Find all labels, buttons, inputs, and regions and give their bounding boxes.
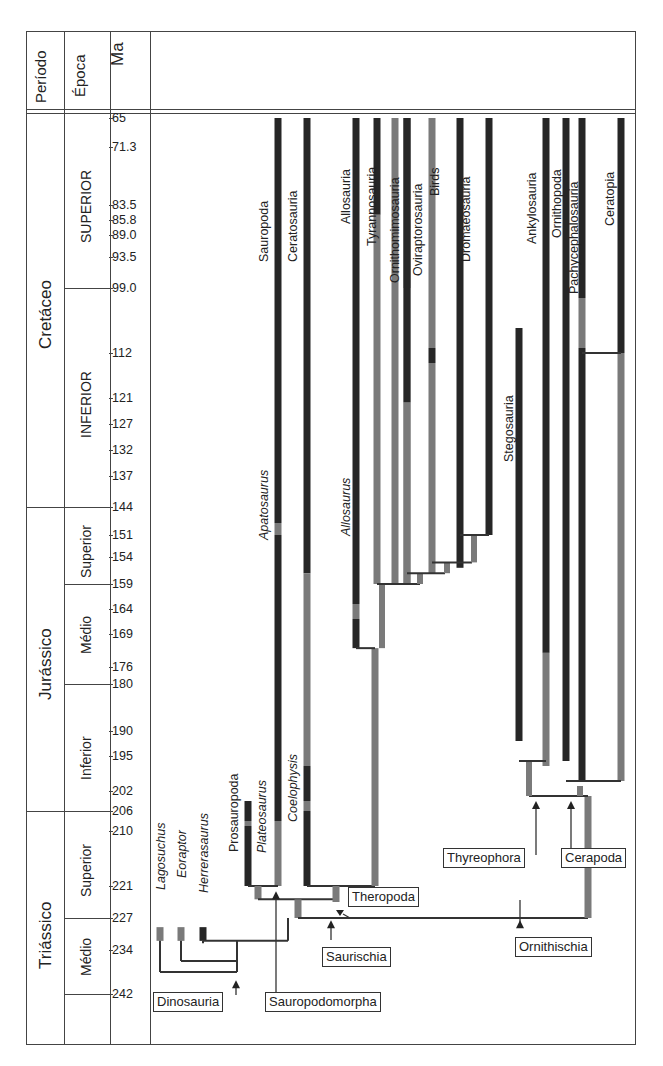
- taxon-label: Eoraptor: [175, 830, 189, 878]
- tetanurae-stem: [372, 648, 379, 886]
- sauropoda-range-bar: [275, 535, 282, 821]
- sauropoda-range-bar: [275, 118, 282, 523]
- allosauria-range-bar: [353, 619, 360, 648]
- taxon-label: Plateosaurus: [255, 780, 269, 853]
- thyreophora-arrowhead-icon: [532, 801, 540, 809]
- dromaeosauria-range-bar: [486, 118, 493, 535]
- ceratosauria-range-bar: [304, 573, 311, 766]
- clade-label-dinosauria: Dinosauria: [153, 992, 223, 1012]
- ornithomimosauria-range-bar: [404, 288, 411, 402]
- eoraptor-range-bar: [178, 927, 185, 941]
- clade-label-thyreophora: Thyreophora: [443, 848, 525, 868]
- deinonychosaur-stem: [471, 535, 477, 562]
- clade-label-sauropodomorpha: Sauropodomorpha: [265, 992, 381, 1012]
- taxon-label: Ornithopoda: [550, 169, 564, 238]
- oviraptorosauria-range-bar: [429, 118, 436, 348]
- lagosuchus-range-bar: [157, 927, 164, 941]
- sauropoda-range-bar: [275, 523, 282, 535]
- allosauria-range-bar: [353, 604, 360, 619]
- ceratopia-range-bar: [618, 118, 625, 353]
- taxon-label: Ornithomimosauria: [388, 177, 402, 283]
- epoch-label: Médio: [78, 938, 94, 976]
- cerapoda-arrowhead-icon: [567, 801, 575, 809]
- sauropoda-range-bar: [275, 821, 282, 886]
- taxon-label: Pachycephalosauria: [567, 181, 581, 294]
- taxon-label: Oviraptorosauria: [411, 184, 425, 276]
- taxon-label: Apatosaurus: [257, 470, 271, 540]
- pachycephalosauria-range-bar: [579, 298, 586, 348]
- prosauropoda-range-bar: [245, 826, 252, 886]
- period-label: Jurássico: [36, 629, 56, 701]
- taxon-label: Ankylosauria: [525, 172, 539, 244]
- taxon-label: Sauropoda: [257, 201, 271, 262]
- saurischia-arrowhead-icon: [327, 920, 335, 928]
- prosauropoda-range-bar: [245, 821, 252, 826]
- saurischia-stem: [295, 899, 302, 918]
- pachycephalosauria-range-bar: [579, 348, 586, 781]
- sauropodomorpha-arrowhead-icon: [272, 891, 280, 899]
- cerapoda-stem: [577, 786, 583, 796]
- taxon-label: Dromaeosauria: [459, 177, 473, 262]
- theropoda-arrowhead-icon: [336, 910, 344, 916]
- thyreophora-stem: [526, 761, 532, 796]
- ceratosauria-range-bar: [304, 801, 311, 811]
- theropoda-stem: [333, 886, 340, 902]
- ankylosauria-range-bar: [543, 653, 550, 766]
- epoch-label: Superior: [78, 844, 94, 897]
- coelurosaur-stem: [379, 584, 385, 648]
- stegosauria-range-bar: [516, 328, 523, 741]
- epoch-label: SUPERIOR: [78, 170, 94, 243]
- maniraptor-stem: [417, 573, 423, 584]
- taxon-label: Ceratopia: [603, 172, 617, 226]
- taxon-label: Coelophysis: [286, 754, 300, 822]
- oviraptorosauria-range-bar: [429, 348, 436, 363]
- taxon-label: Birds: [428, 168, 442, 196]
- taxon-label: Prosauropoda: [227, 773, 241, 852]
- ceratosauria-range-bar: [304, 118, 311, 573]
- clade-label-cerapoda: Cerapoda: [561, 848, 626, 868]
- epoch-label: Inferior: [78, 736, 94, 780]
- taxon-label: Allosaurus: [339, 478, 353, 536]
- ornithomimosauria-range-bar: [404, 118, 411, 288]
- paraves-stem: [444, 562, 450, 573]
- oviraptorosauria-range-bar: [429, 363, 436, 573]
- taxon-label: Allosauria: [339, 169, 353, 224]
- sauropodomorph-stem: [255, 886, 262, 899]
- clade-label-theropoda: Theropoda: [348, 887, 419, 907]
- dinosauria-arrowhead-icon: [232, 980, 240, 988]
- clade-label-saurischia: Saurischia: [322, 947, 391, 967]
- taxon-label: Herrerasaurus: [197, 813, 211, 893]
- period-label: Triássico: [36, 902, 56, 969]
- prosauropoda-range-bar: [245, 801, 252, 821]
- taxon-label: Ceratosauria: [286, 190, 300, 262]
- ceratosauria-range-bar: [304, 811, 311, 886]
- taxon-label: Stegosauria: [502, 395, 516, 462]
- ornithischia-arrowhead-icon: [516, 920, 524, 928]
- ankylosauria-range-bar: [543, 118, 550, 653]
- epoch-label: INFERIOR: [78, 371, 94, 438]
- tyrannosauria-range-bar: [374, 215, 381, 584]
- period-label: Cretáceo: [36, 280, 56, 349]
- clade-label-ornithischia: Ornithischia: [515, 937, 592, 957]
- ornithomimosauria-range-bar: [404, 402, 411, 584]
- ceratopia-range-bar: [618, 353, 625, 781]
- epoch-label: Superior: [78, 525, 94, 578]
- taxon-label: Tyrannosauria: [365, 167, 379, 246]
- phylogeny-tree: [0, 0, 663, 1066]
- allosauria-range-bar: [353, 118, 360, 604]
- taxon-label: Lagosuchus: [154, 823, 168, 890]
- epoch-label: Médio: [78, 616, 94, 654]
- ceratosauria-range-bar: [304, 766, 311, 801]
- herrerasaurus-range-bar: [200, 927, 207, 941]
